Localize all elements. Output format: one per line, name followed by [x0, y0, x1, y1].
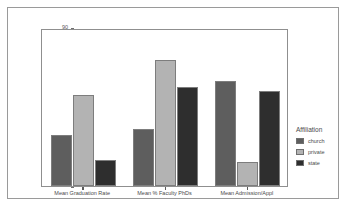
- legend-swatch-private: [296, 149, 304, 155]
- legend-swatch-state: [296, 160, 304, 166]
- x-axis-category-label: Mean % Faculty PhDs: [123, 190, 205, 196]
- plot-area: 9080706050 Mean Graduation RateMean % Fa…: [41, 22, 288, 187]
- bar-church[interactable]: [51, 135, 72, 186]
- bar-state[interactable]: [259, 91, 280, 186]
- legend-label-private: private: [308, 149, 325, 155]
- legend-item-state[interactable]: state: [296, 160, 348, 166]
- chart-legend: Affiliation churchprivatestate: [296, 126, 348, 171]
- chart-frame: 9080706050 Mean Graduation RateMean % Fa…: [7, 7, 339, 199]
- x-axis-category-label: Mean Graduation Rate: [41, 190, 123, 196]
- bar-church[interactable]: [133, 129, 154, 186]
- plot-box: [41, 29, 288, 187]
- legend-item-church[interactable]: church: [296, 138, 348, 144]
- legend-title: Affiliation: [296, 126, 348, 133]
- bar-state[interactable]: [95, 160, 116, 186]
- bar-private[interactable]: [155, 60, 176, 186]
- legend-swatch-church: [296, 138, 304, 144]
- legend-item-private[interactable]: private: [296, 149, 348, 155]
- legend-label-state: state: [308, 160, 320, 166]
- bar-group: [133, 28, 198, 186]
- x-axis-category-label: Mean Admission/Appl: [206, 190, 288, 196]
- bar-group: [215, 28, 280, 186]
- legend-rows: churchprivatestate: [296, 138, 348, 166]
- bar-group: [51, 28, 116, 186]
- bar-church[interactable]: [215, 81, 236, 186]
- bar-private[interactable]: [237, 162, 258, 186]
- legend-label-church: church: [308, 138, 325, 144]
- bar-private[interactable]: [73, 95, 94, 186]
- bar-state[interactable]: [177, 87, 198, 186]
